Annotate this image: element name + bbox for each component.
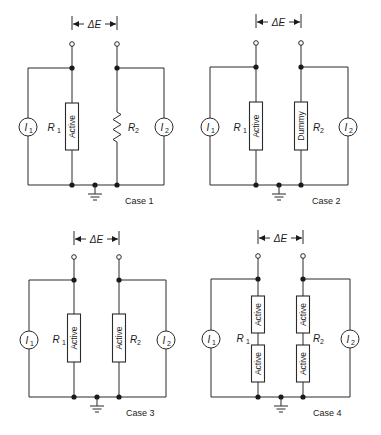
current-source-i2: I 2 [341,330,359,348]
current-source-i2: I 2 [155,118,173,136]
svg-text:I: I [26,335,29,346]
r1-active-gauge: Active [250,102,263,150]
current-source-i1: I 1 [202,330,220,348]
current-source-i1: I 1 [20,331,38,349]
delta-e-label: ΔE [273,233,288,244]
output-terminal-right [117,255,122,260]
case-3-label: Case 3 [126,408,155,418]
svg-text:I: I [163,335,166,346]
svg-text:1: 1 [57,127,61,134]
svg-text:Active: Active [253,303,263,326]
output-terminal-left [254,41,259,46]
case-3-circuit: ΔE I 1 I 2 [20,231,175,418]
current-source-i2: I 2 [339,118,357,136]
bridge-circuit-diagrams: ΔE I 1 I [0,0,381,435]
r1-active-gauge-upper: Active [252,296,265,333]
delta-e-indicator: ΔE [72,16,117,30]
r1-label: R 1 [47,122,61,134]
r2-dummy-gauge: Dummy [295,102,308,150]
svg-text:Active: Active [298,352,308,375]
svg-text:1: 1 [212,339,216,346]
r2-resistor-icon [113,112,121,142]
svg-text:Active: Active [114,326,124,349]
r2-active-gauge-lower: Active [297,345,310,382]
svg-text:I: I [347,334,350,345]
delta-e-label: ΔE [87,19,102,30]
ground-icon [272,185,286,200]
delta-e-indicator: ΔE [258,230,303,244]
svg-text:2: 2 [351,339,355,346]
svg-text:R: R [47,122,54,133]
r1-label: R 1 [233,122,247,134]
svg-text:I: I [161,122,164,133]
svg-text:1: 1 [62,339,66,346]
delta-e-label: ΔE [271,17,286,28]
svg-text:Active: Active [298,303,308,326]
svg-text:2: 2 [137,339,141,346]
output-terminal-left [70,42,75,47]
svg-text:1: 1 [211,127,215,134]
svg-text:Dummy: Dummy [296,111,306,141]
svg-text:2: 2 [135,127,139,134]
r1-active-gauge: Active [68,314,81,362]
r2-active-gauge: Active [113,314,126,362]
svg-text:R: R [52,334,59,345]
svg-text:2: 2 [349,127,353,134]
svg-text:R: R [233,122,240,133]
svg-text:Active: Active [251,114,261,137]
svg-text:1: 1 [30,340,34,347]
output-terminal-right [115,42,120,47]
case-4-circuit: ΔE I 1 I 2 [202,230,359,418]
svg-text:1: 1 [29,127,33,134]
current-source-i1: I 1 [19,118,37,136]
current-source-i1: I 1 [201,118,219,136]
svg-text:I: I [345,122,348,133]
current-source-i2: I 2 [157,331,175,349]
svg-text:Active: Active [253,352,263,375]
delta-e-indicator: ΔE [74,231,119,245]
svg-text:2: 2 [320,127,324,134]
svg-text:Active: Active [69,326,79,349]
output-terminal-left [256,254,261,259]
r1-active-gauge: Active [66,103,79,150]
case-1-label: Case 1 [125,196,154,206]
svg-text:R: R [236,333,243,344]
ground-icon [90,397,104,412]
delta-e-label: ΔE [89,234,104,245]
output-terminal-right [299,41,304,46]
svg-text:2: 2 [320,338,324,345]
r1-label: R 1 [236,333,250,345]
svg-text:1: 1 [243,127,247,134]
r1-label: R 1 [52,334,66,346]
r1-active-gauge-lower: Active [252,345,265,382]
r2-label: R 2 [313,333,324,345]
ground-icon [274,397,288,412]
r2-label: R 2 [128,122,139,134]
output-terminal-left [72,255,77,260]
svg-text:Active: Active [67,115,77,138]
ground-icon [88,185,102,200]
svg-text:1: 1 [246,338,250,345]
output-terminal-right [301,254,306,259]
case-2-label: Case 2 [312,196,341,206]
svg-text:I: I [25,122,28,133]
svg-text:2: 2 [165,127,169,134]
r2-label: R 2 [130,334,141,346]
case-2-circuit: ΔE I 1 I 2 [201,14,357,206]
svg-text:2: 2 [167,340,171,347]
svg-text:I: I [208,334,211,345]
delta-e-indicator: ΔE [256,14,301,28]
svg-text:I: I [207,122,210,133]
r2-active-gauge-upper: Active [297,296,310,333]
r2-label: R 2 [313,122,324,134]
case-1-circuit: ΔE I 1 I [19,16,173,206]
case-4-label: Case 4 [313,408,342,418]
